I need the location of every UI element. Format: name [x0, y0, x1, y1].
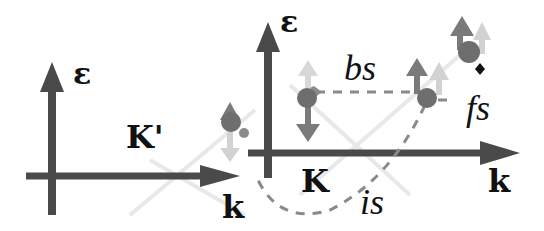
- right-energy-arrowhead: [256, 22, 280, 52]
- left-momentum-label: k: [222, 188, 245, 226]
- left-momentum-arrowhead: [200, 165, 240, 187]
- electron-kprime: [220, 102, 249, 162]
- is-label: is: [360, 182, 384, 222]
- spin-up-light-icon: [298, 60, 318, 76]
- spin-up-icon: [450, 16, 474, 36]
- left-valley-label: K': [126, 118, 164, 156]
- spin-down-icon: [296, 124, 320, 142]
- band-diagram: ε K' k ε K k bs fs is: [0, 0, 544, 231]
- left-energy-arrowhead: [40, 62, 64, 92]
- electron-k-backscattered: [296, 60, 320, 142]
- spin-up-light-icon: [473, 22, 491, 40]
- right-valley-label: K: [301, 162, 330, 200]
- electron-fs: [450, 16, 491, 75]
- spin-up-icon: [406, 58, 428, 76]
- electron-icon: [221, 112, 241, 132]
- right-momentum-label: k: [488, 162, 511, 200]
- right-energy-label: ε: [280, 4, 298, 39]
- electron-icon: [458, 41, 480, 63]
- electron-icon: [417, 88, 437, 108]
- faint-band-lines: [130, 55, 460, 215]
- left-energy-label: ε: [73, 56, 91, 91]
- spin-down-icon: [220, 148, 240, 162]
- electron-icon: [297, 88, 317, 108]
- bs-label: bs: [344, 48, 376, 88]
- fs-arrowhead-icon: [475, 63, 485, 75]
- fs-label: fs: [466, 88, 490, 128]
